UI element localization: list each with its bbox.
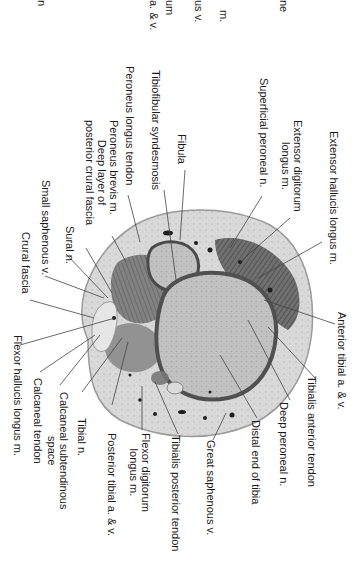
label-small-saphenous-v: Small saphenous v. (40, 180, 52, 275)
label-posterior-tibial-av: Posterior tibial a. & v. (106, 433, 118, 536)
flexor-digitorum-tendon (151, 371, 169, 385)
label-calcaneal-tendon: Calcaneal tendon (32, 378, 44, 464)
label-tibiofibular-syndesmosis: Tibiofibular syndesmosis (150, 70, 162, 190)
label-flexor-digitorum-longus: Flexor digitorum longus m. (128, 433, 152, 512)
label-fibula: Fibula (176, 134, 188, 164)
label-sural-n: Sural n. (64, 226, 76, 264)
cropped-fragment: us v. (193, 0, 205, 22)
label-crural-fascia: Crural fascia (20, 232, 32, 294)
label-peroneus-brevis-m: Peroneus brevis m. (108, 120, 120, 215)
cropped-fragment: n (36, 0, 48, 6)
anatomy-figure: Extensor hallucis longus m. Extensor dig… (0, 0, 358, 562)
cropped-fragment: m. (218, 10, 230, 22)
label-deep-peroneal-n: Deep peroneal n. (278, 402, 290, 486)
cropped-fragment: a. & v. (148, 0, 160, 30)
cropped-fragment: ne (278, 0, 290, 12)
label-extensor-digitorum-longus: Extensor digitorum longus m. (280, 120, 304, 212)
label-tibial-n: Tibial n. (76, 418, 88, 456)
label-extensor-hallucis-longus: Extensor hallucis longus m. (328, 131, 340, 265)
cropped-fragment: um (164, 0, 176, 15)
label-tibialis-anterior-tendon: Tibialis anterior tendon (306, 376, 318, 487)
label-calcaneal-subtendinous-space: Calcaneal subtendinous space (46, 392, 70, 509)
label-anterior-tibial-av: Anterior tibial a. & v. (336, 312, 348, 410)
label-peroneus-longus-tendon: Peroneus longus tendon (124, 66, 136, 185)
label-superficial-peroneal-n: Superficial peroneal n. (258, 78, 270, 187)
label-tibialis-posterior-tendon: Tibialis posterior tendon (170, 435, 182, 551)
label-great-saphenous-v: Great saphenous v. (205, 440, 217, 535)
label-distal-end-of-tibia: Distal end of tibia (250, 420, 262, 504)
label-flexor-hallucis-longus: Flexor hallucis longus m. (12, 335, 24, 456)
label-deep-layer-posterior-crural-fascia: Deep layer of posterior crural fascia (84, 120, 108, 225)
tibialis-posterior-tendon (167, 382, 183, 394)
tibia-bone (156, 273, 276, 400)
